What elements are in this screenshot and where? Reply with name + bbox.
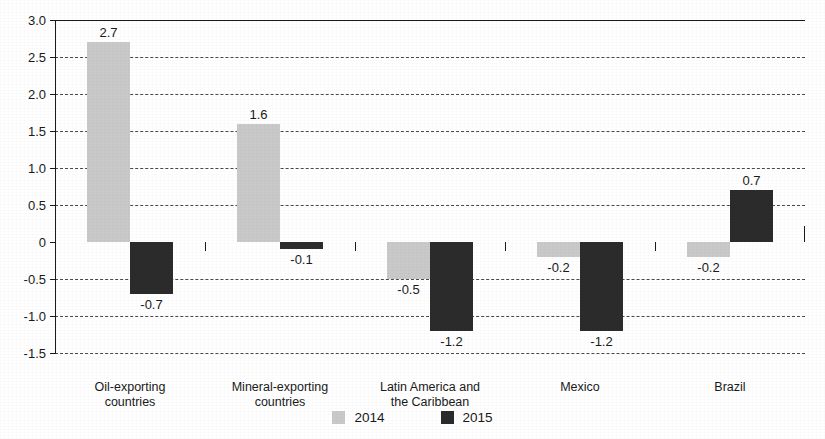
plot-area: 3.02.52.01.51.00.50-0.5-1.0-1.5 2.7-0.71… [55,20,805,353]
category-label-line: countries [200,395,360,410]
gridline [55,168,805,169]
y-axis-label: 2.0 [28,88,46,101]
bar-2014-4 [537,242,580,257]
category-label-line: the Caribbean [350,395,510,410]
bar-value-label: -1.2 [413,335,490,348]
category-label: Latin America andthe Caribbean [350,380,510,410]
legend-swatch-icon [332,411,345,424]
legend-item-2015[interactable]: 2015 [441,411,493,425]
gridline [55,57,805,58]
y-axis-tick [50,205,56,206]
y-axis-line [55,20,56,353]
y-axis-label: 0 [39,236,46,249]
x-axis-tick [355,242,356,251]
gridline [55,131,805,132]
right-axis-stub [804,226,805,242]
legend-swatch-icon [441,411,454,424]
legend-label: 2015 [463,411,493,425]
y-axis-label: 2.5 [28,51,46,64]
category-label-line: countries [50,395,210,410]
gridline [55,94,805,95]
bar-value-label: -0.7 [113,298,190,311]
chart-title [0,0,825,1]
category-label-line: Oil-exporting [50,380,210,395]
y-axis-tick [50,94,56,95]
x-axis-tick [205,242,206,251]
y-axis-label: -1.5 [24,347,46,360]
category-label-line: Brazil [650,380,810,395]
bar-value-label: 1.6 [220,108,297,121]
category-label: Oil-exportingcountries [50,380,210,410]
y-axis-label: 1.5 [28,125,46,138]
y-axis-tick [50,279,56,280]
y-axis-tick [50,131,56,132]
y-axis-label: -1.0 [24,310,46,323]
bar-2014-1 [87,42,130,242]
legend-item-2014[interactable]: 2014 [332,411,384,425]
y-axis-tick [50,20,56,21]
bar-value-label: -0.2 [670,261,747,274]
category-label-line: Mexico [500,380,660,395]
y-axis-tick [50,242,56,243]
y-axis-tick [50,57,56,58]
zero-baseline [55,20,805,21]
x-axis-tick [655,242,656,251]
category-label: Mexico [500,380,660,395]
category-label-line: Latin America and [350,380,510,395]
category-label: Mineral-exportingcountries [200,380,360,410]
bar-2015-5 [730,190,773,242]
bar-value-label: -0.1 [263,253,340,266]
bar-value-label: -1.2 [563,335,640,348]
y-axis-label: -0.5 [24,273,46,286]
bar-2014-2 [237,124,280,242]
bar-value-label: 2.7 [70,26,147,39]
bar-value-label: 0.7 [713,174,790,187]
bar-2014-5 [687,242,730,257]
y-axis-label: 1.0 [28,162,46,175]
bar-2014-3 [387,242,430,279]
gridline [55,353,805,354]
gridline [55,205,805,206]
y-axis-label: 0.5 [28,199,46,212]
category-label: Brazil [650,380,810,395]
bar-2015-2 [280,242,323,249]
y-axis-tick [50,353,56,354]
category-label-line: Mineral-exporting [200,380,360,395]
bar-2015-1 [130,242,173,294]
grouped-bar-chart: 3.02.52.01.51.00.50-0.5-1.0-1.5 2.7-0.71… [0,0,825,439]
y-axis-tick [50,316,56,317]
y-axis-tick [50,168,56,169]
bar-2015-4 [580,242,623,331]
bar-2015-3 [430,242,473,331]
x-axis-tick [505,242,506,251]
chart-legend: 20142015 [0,411,825,425]
legend-label: 2014 [354,411,384,425]
y-axis-label: 3.0 [28,14,46,27]
